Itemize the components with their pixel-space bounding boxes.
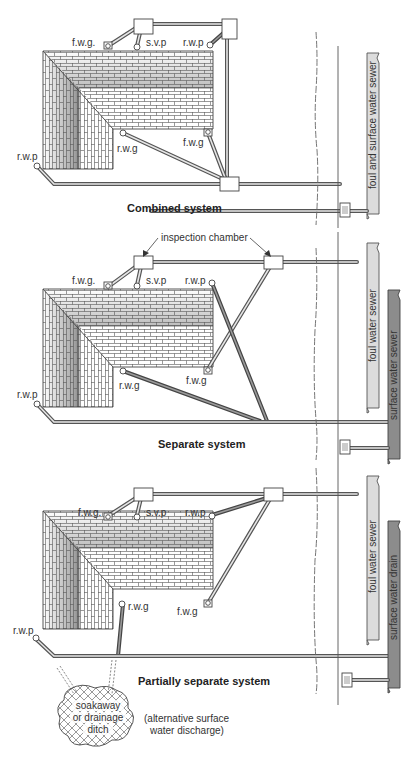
rainwater-pipe-icon bbox=[34, 401, 40, 407]
label-rwp: r.w.p bbox=[17, 151, 38, 162]
soakaway-label: or drainage bbox=[73, 712, 124, 723]
panel-title: Combined system bbox=[127, 202, 222, 214]
rainwater-gully-icon bbox=[120, 130, 126, 136]
label-svp: s.v.p bbox=[146, 37, 167, 48]
panel-title: Separate system bbox=[158, 438, 246, 450]
soakaway-label: soakaway bbox=[76, 700, 120, 711]
gully-icon bbox=[106, 44, 111, 49]
property-boundary-line bbox=[315, 32, 318, 225]
gully-icon bbox=[206, 130, 211, 135]
property-boundary-line bbox=[314, 468, 317, 694]
label-fwg: f.w.g bbox=[177, 606, 198, 617]
rainwater-pipe-icon bbox=[34, 163, 40, 169]
note-alternative-discharge: (alternative surface bbox=[144, 713, 229, 724]
label-rwg: r.w.g bbox=[119, 380, 140, 391]
sewer-label: foul water sewer bbox=[367, 520, 378, 593]
soil-vent-pipe-icon bbox=[134, 44, 140, 50]
label-rwp: r.w.p bbox=[13, 625, 34, 636]
label-rwp: r.w.p bbox=[183, 37, 204, 48]
callout-arrow bbox=[250, 238, 268, 254]
soil-vent-pipe-icon bbox=[134, 283, 140, 289]
sewer-label: foul water sewer bbox=[367, 289, 378, 362]
inspection-chamber bbox=[222, 19, 237, 39]
sewer-label: surface water sewer bbox=[388, 330, 399, 420]
gully-icon bbox=[106, 284, 111, 289]
sewer-surface-water-drain: surface water drain bbox=[388, 521, 400, 693]
label-fwg: f.w.g. bbox=[72, 37, 95, 48]
soakaway-label: ditch bbox=[87, 724, 108, 735]
label-svp: s.v.p bbox=[146, 507, 167, 518]
label-rwp: r.w.p bbox=[185, 275, 206, 286]
label-svp: s.v.p bbox=[146, 275, 167, 286]
sewer-foul-water: foul water sewer bbox=[367, 476, 379, 645]
label-fwg: f.w.g bbox=[186, 375, 207, 386]
note-alternative-discharge: water discharge) bbox=[149, 725, 224, 736]
label-rwp: r.w.p bbox=[185, 507, 206, 518]
inspection-chamber bbox=[134, 488, 153, 501]
label-rwg: r.w.g bbox=[117, 143, 138, 154]
sewer-surface-water: surface water sewer bbox=[388, 290, 400, 464]
rainwater-pipe-icon bbox=[209, 513, 215, 519]
inspection-chamber bbox=[220, 177, 239, 191]
sewer-label: surface water drain bbox=[388, 555, 399, 640]
sewer-foul-water: foul water sewer bbox=[367, 243, 379, 413]
rainwater-pipe-icon bbox=[209, 280, 215, 286]
soil-vent-pipe-icon bbox=[134, 514, 140, 520]
rainwater-gully-icon bbox=[120, 368, 126, 374]
panel-separate-system: inspection chamber f.w.g. s.v.p r.w.p r.… bbox=[17, 232, 400, 464]
callout-arrow bbox=[145, 238, 158, 254]
label-fwg: f.w.g. bbox=[78, 507, 101, 518]
label-rwg: r.w.g bbox=[128, 601, 149, 612]
drainage-diagram: f.w.g. s.v.p r.w.p r.w.p r.w.g f.w.g fou… bbox=[0, 0, 407, 758]
gully-icon bbox=[206, 368, 211, 373]
soakaway: soakaway or drainage ditch bbox=[58, 685, 134, 746]
inspection-chamber bbox=[264, 256, 283, 269]
rainwater-pipe-icon bbox=[33, 635, 39, 641]
property-boundary-line bbox=[314, 248, 317, 460]
panel-partially-separate-system: f.w.g. s.v.p r.w.p r.w.p r.w.g f.w.g fou… bbox=[13, 460, 400, 746]
callout-inspection-chamber: inspection chamber bbox=[161, 232, 248, 243]
label-rwp: r.w.p bbox=[17, 389, 38, 400]
gully-icon bbox=[106, 515, 111, 520]
label-fwg: f.w.g bbox=[183, 137, 204, 148]
inspection-chamber bbox=[134, 19, 153, 34]
rainwater-pipe-icon bbox=[207, 42, 213, 48]
inspection-chamber bbox=[264, 488, 283, 501]
panel-title: Partially separate system bbox=[138, 675, 270, 687]
label-fwg: f.w.g. bbox=[72, 275, 95, 286]
rainwater-gully-icon bbox=[119, 601, 125, 607]
gully-icon bbox=[206, 601, 211, 606]
sewer-label: foul and surface water sewer bbox=[367, 60, 378, 189]
inspection-chamber bbox=[134, 256, 153, 269]
panel-combined-system: f.w.g. s.v.p r.w.p r.w.p r.w.g f.w.g fou… bbox=[17, 19, 379, 228]
sewer-foul-and-surface: foul and surface water sewer bbox=[367, 53, 379, 219]
